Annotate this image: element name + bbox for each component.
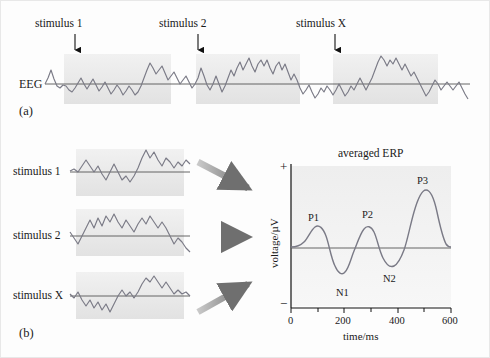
panel-a-label: (a) — [19, 105, 33, 118]
erp-chart-title: averaged ERP — [338, 148, 403, 160]
erp-y-positive-sign: + — [280, 160, 287, 173]
stimulus-arrows-panel-a — [75, 34, 335, 50]
erp-x-axis-label: time/ms — [343, 331, 378, 342]
panel-b-label: (b) — [19, 327, 34, 340]
erp-y-axis-label: voltage/µV — [268, 218, 280, 268]
stimulus-x-top-label: stimulus X — [296, 18, 346, 30]
trial-2-label: stimulus 2 — [13, 230, 61, 242]
stimulus-1-top-label: stimulus 1 — [35, 18, 83, 30]
erp-peak-n1-label: N1 — [336, 288, 349, 299]
erp-figure: stimulus 1 stimulus 2 stimulus X EEG (a)… — [0, 0, 490, 358]
averaging-arrows — [198, 162, 248, 312]
erp-peak-p1-label: P1 — [308, 213, 319, 224]
erp-x-tick-200: 200 — [335, 316, 351, 327]
trial-epoch-boxes — [76, 149, 184, 319]
erp-x-tick-400: 400 — [389, 316, 405, 327]
trial-1-label: stimulus 1 — [13, 166, 61, 178]
eeg-epoch-boxes — [64, 54, 438, 104]
erp-peak-n2-label: N2 — [383, 274, 396, 285]
erp-plot-background — [291, 166, 451, 306]
stimulus-2-top-label: stimulus 2 — [159, 18, 207, 30]
erp-y-negative-sign: − — [280, 297, 287, 310]
erp-x-tick-600: 600 — [442, 316, 458, 327]
trial-x-label: stimulus X — [13, 290, 63, 302]
erp-x-ticks — [291, 308, 451, 313]
erp-x-tick-0: 0 — [288, 316, 293, 327]
eeg-label: EEG — [19, 78, 42, 90]
erp-peak-p2-label: P2 — [362, 210, 373, 221]
erp-peak-p3-label: P3 — [417, 176, 428, 187]
